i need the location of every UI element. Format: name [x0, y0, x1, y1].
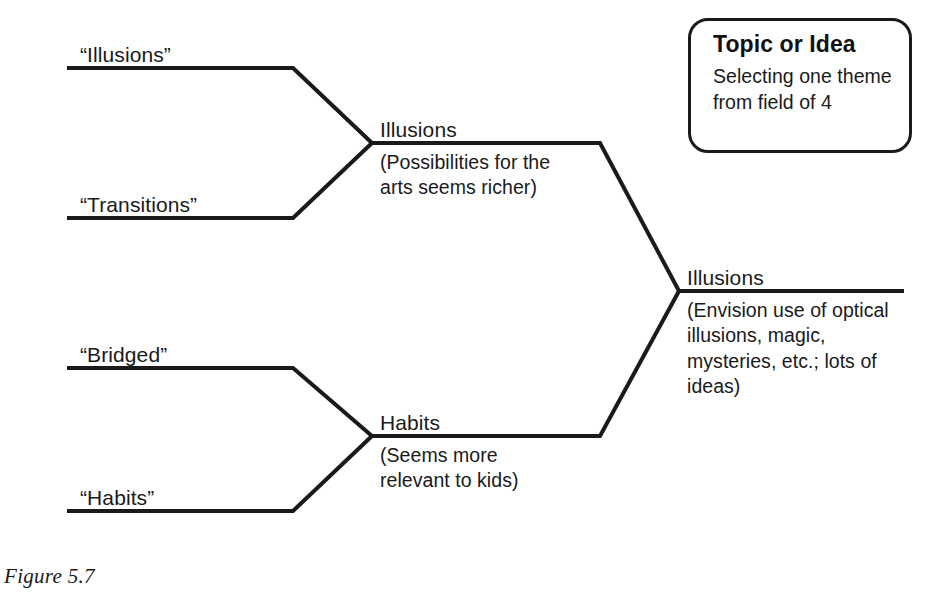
mid-node-desc-illusions: (Possibilities for the arts seems richer… — [380, 150, 600, 201]
leaf-label-habits: “Habits” — [80, 487, 154, 508]
callout-body: Selecting one theme from field of 4 — [713, 64, 903, 115]
branch-illusions-leaf — [67, 68, 372, 143]
mid-node-desc-habits: (Seems more relevant to kids) — [380, 443, 600, 494]
figure-caption: Figure 5.7 — [4, 564, 95, 589]
mid-node-title-illusions: Illusions — [380, 119, 457, 140]
leaf-label-transitions: “Transitions” — [80, 194, 197, 215]
callout-title: Topic or Idea — [713, 31, 856, 58]
final-node-title-illusions: Illusions — [687, 267, 764, 288]
mid-node-title-habits: Habits — [380, 412, 440, 433]
leaf-label-bridged: “Bridged” — [80, 344, 167, 365]
leaf-label-illusions: “Illusions” — [80, 44, 171, 65]
branch-bridged-leaf — [67, 368, 372, 436]
final-node-desc-illusions: (Envision use of optical illusions, magi… — [687, 298, 937, 399]
figure-container: “Illusions” “Transitions” “Bridged” “Hab… — [0, 0, 947, 606]
